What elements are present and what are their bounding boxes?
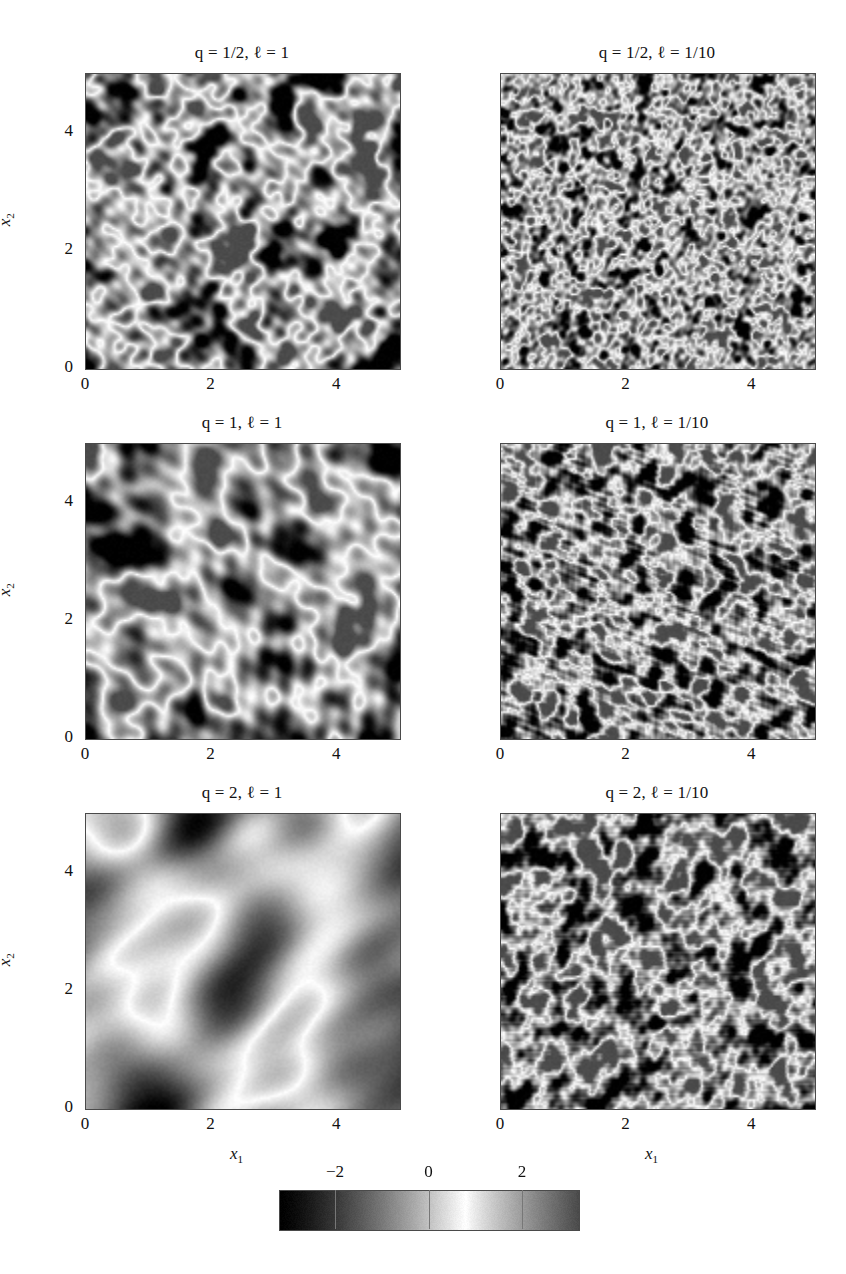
heatmap-image-q-1-l-1 — [86, 444, 400, 739]
y-axis-label-base: x — [0, 218, 14, 226]
y-axis-label-subscript: 2 — [4, 583, 16, 589]
x-axis-label-subscript: 1 — [653, 1153, 659, 1165]
colorbar-tick-label: 2 — [497, 1162, 547, 1182]
colorbar-tick-mark — [429, 1190, 430, 1229]
figure-canvas: q = 1/2, ℓ = 1024x2024q = 1/2, ℓ = 1/100… — [0, 0, 846, 1274]
y-tick-label: 2 — [33, 979, 73, 999]
x-tick-label: 4 — [316, 1114, 356, 1134]
heatmap-panel-q-2-l-1 — [85, 813, 401, 1110]
panel-title-q-1-l-1: q = 1, ℓ = 1 — [85, 413, 399, 433]
colorbar-tick-mark — [335, 1190, 336, 1229]
x-tick-label: 2 — [191, 744, 231, 764]
y-axis-label-subscript: 2 — [4, 953, 16, 959]
x-tick-label: 0 — [480, 374, 520, 394]
y-tick-label: 4 — [33, 491, 73, 511]
x-tick-label: 2 — [191, 1114, 231, 1134]
heatmap-panel-q-2-l-0.1 — [500, 813, 816, 1110]
x-axis-label: x1 — [230, 1144, 243, 1165]
x-tick-label: 2 — [606, 744, 646, 764]
y-axis-label-base: x — [0, 588, 14, 596]
x-tick-label: 2 — [606, 374, 646, 394]
x-tick-label: 4 — [316, 744, 356, 764]
x-axis-label-base: x — [230, 1144, 238, 1163]
x-tick-label: 4 — [731, 744, 771, 764]
heatmap-image-q-2-l-1 — [86, 814, 400, 1109]
heatmap-panel-q-1-l-0.1 — [500, 443, 816, 740]
x-tick-label: 0 — [65, 1114, 105, 1134]
colorbar — [279, 1190, 580, 1231]
panel-title-q-1-l-0.1: q = 1, ℓ = 1/10 — [500, 413, 814, 433]
colorbar-tick-label: 0 — [404, 1162, 454, 1182]
colorbar-tick-label: −2 — [310, 1162, 360, 1182]
x-axis-label: x1 — [645, 1144, 658, 1165]
y-axis-label: x2 — [0, 583, 16, 596]
heatmap-image-q-1-l-0.1 — [501, 444, 815, 739]
panel-title-q-half-l-1: q = 1/2, ℓ = 1 — [85, 43, 399, 63]
x-axis-label-subscript: 1 — [238, 1153, 244, 1165]
colorbar-gradient — [280, 1191, 579, 1230]
y-axis-label-base: x — [0, 958, 14, 966]
colorbar-tick-mark — [522, 1190, 523, 1229]
panel-title-q-2-l-0.1: q = 2, ℓ = 1/10 — [500, 783, 814, 803]
panel-title-q-half-l-0.1: q = 1/2, ℓ = 1/10 — [500, 43, 814, 63]
x-tick-label: 4 — [731, 1114, 771, 1134]
heatmap-panel-q-1-l-1 — [85, 443, 401, 740]
panel-title-q-2-l-1: q = 2, ℓ = 1 — [85, 783, 399, 803]
heatmap-image-q-half-l-0.1 — [501, 74, 815, 369]
y-axis-label-subscript: 2 — [4, 213, 16, 219]
y-tick-label: 4 — [33, 861, 73, 881]
heatmap-panel-q-half-l-0.1 — [500, 73, 816, 370]
x-tick-label: 4 — [316, 374, 356, 394]
heatmap-image-q-2-l-0.1 — [501, 814, 815, 1109]
y-tick-label: 4 — [33, 121, 73, 141]
x-tick-label: 2 — [191, 374, 231, 394]
x-tick-label: 0 — [65, 374, 105, 394]
x-tick-label: 0 — [480, 744, 520, 764]
heatmap-image-q-half-l-1 — [86, 74, 400, 369]
x-tick-label: 2 — [606, 1114, 646, 1134]
x-tick-label: 0 — [480, 1114, 520, 1134]
x-tick-label: 4 — [731, 374, 771, 394]
y-axis-label: x2 — [0, 213, 16, 226]
y-axis-label: x2 — [0, 953, 16, 966]
heatmap-panel-q-half-l-1 — [85, 73, 401, 370]
y-tick-label: 2 — [33, 609, 73, 629]
x-axis-label-base: x — [645, 1144, 653, 1163]
x-tick-label: 0 — [65, 744, 105, 764]
y-tick-label: 2 — [33, 239, 73, 259]
